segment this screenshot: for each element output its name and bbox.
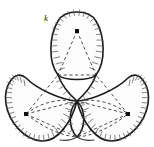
figure-canvas: k bbox=[0, 0, 154, 147]
lens-bottom-left-tail bbox=[60, 137, 77, 140]
right-lobe-group bbox=[77, 75, 148, 141]
left-lobe-group bbox=[6, 75, 77, 141]
top-lobe-group bbox=[51, 10, 103, 82]
right-center-dot bbox=[126, 112, 130, 116]
trefoil-curve-figure: k bbox=[0, 0, 154, 147]
left-center-dot bbox=[24, 112, 28, 116]
top-center-dot bbox=[75, 29, 79, 33]
curve-label-k: k bbox=[44, 13, 49, 23]
right-lobe-fill bbox=[77, 75, 148, 141]
lens-bottom-right-tail bbox=[77, 137, 94, 140]
left-lobe-fill bbox=[6, 75, 77, 141]
top-lobe-fill bbox=[51, 12, 103, 82]
